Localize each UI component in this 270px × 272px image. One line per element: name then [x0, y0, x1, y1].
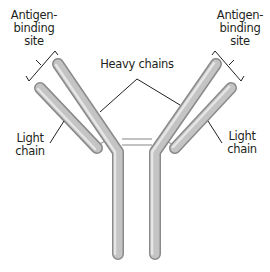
light-chain-label-right: Light chain	[222, 130, 262, 156]
heavy-chain-left	[56, 64, 118, 254]
antigen-binding-site-label-left: Antigen- binding site	[4, 9, 64, 48]
light-chain-leader-right	[208, 121, 222, 143]
heavy-chain-right	[152, 63, 216, 254]
light-chain-leader-left	[50, 121, 64, 143]
heavy-chains-leader	[100, 79, 180, 112]
heavy-chains-label: Heavy chains	[97, 58, 177, 71]
antigen-binding-site-label-right: Antigen- binding site	[210, 9, 270, 48]
light-chain-label-left: Light chain	[10, 132, 50, 158]
